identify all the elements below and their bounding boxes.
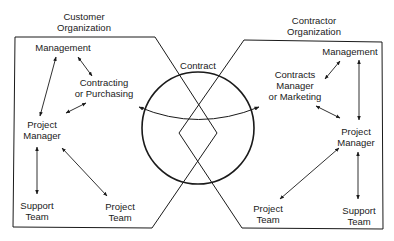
contractor-management-node: Management [320, 46, 380, 57]
arrow-cust-contracting-pm [66, 103, 86, 113]
contractor-organization-title: Contractor Organization [284, 15, 344, 37]
customer-management-node: Management [33, 42, 93, 53]
contract-label: Contract [176, 60, 220, 71]
arrow-cust-mgmt-contracting [78, 57, 92, 76]
customer-contracting-node: Contracting or Purchasing [70, 77, 138, 99]
arrow-cust-pm-team [62, 148, 107, 196]
contractor-contracts-manager-node: Contracts Manager or Marketing [264, 69, 326, 102]
contractor-project-team-node: Project Team [248, 203, 288, 225]
customer-organization-title: Customer Organization [56, 11, 112, 33]
arrow-contr-pm-team [280, 148, 339, 199]
customer-project-manager-node: Project Manager [22, 119, 62, 141]
contract-circle [142, 72, 254, 184]
arrow-contr-mgmt-contracts [325, 61, 340, 79]
customer-support-team-node: Support Team [17, 200, 57, 222]
contractor-support-team-node: Support Team [339, 205, 379, 227]
arrow-cust-mgmt-pm [40, 57, 56, 116]
contract-arc-arrow [139, 107, 259, 120]
arrow-contr-contracts-pm [316, 106, 340, 118]
contractor-project-manager-node: Project Manager [334, 126, 378, 148]
customer-project-team-node: Project Team [100, 201, 140, 223]
